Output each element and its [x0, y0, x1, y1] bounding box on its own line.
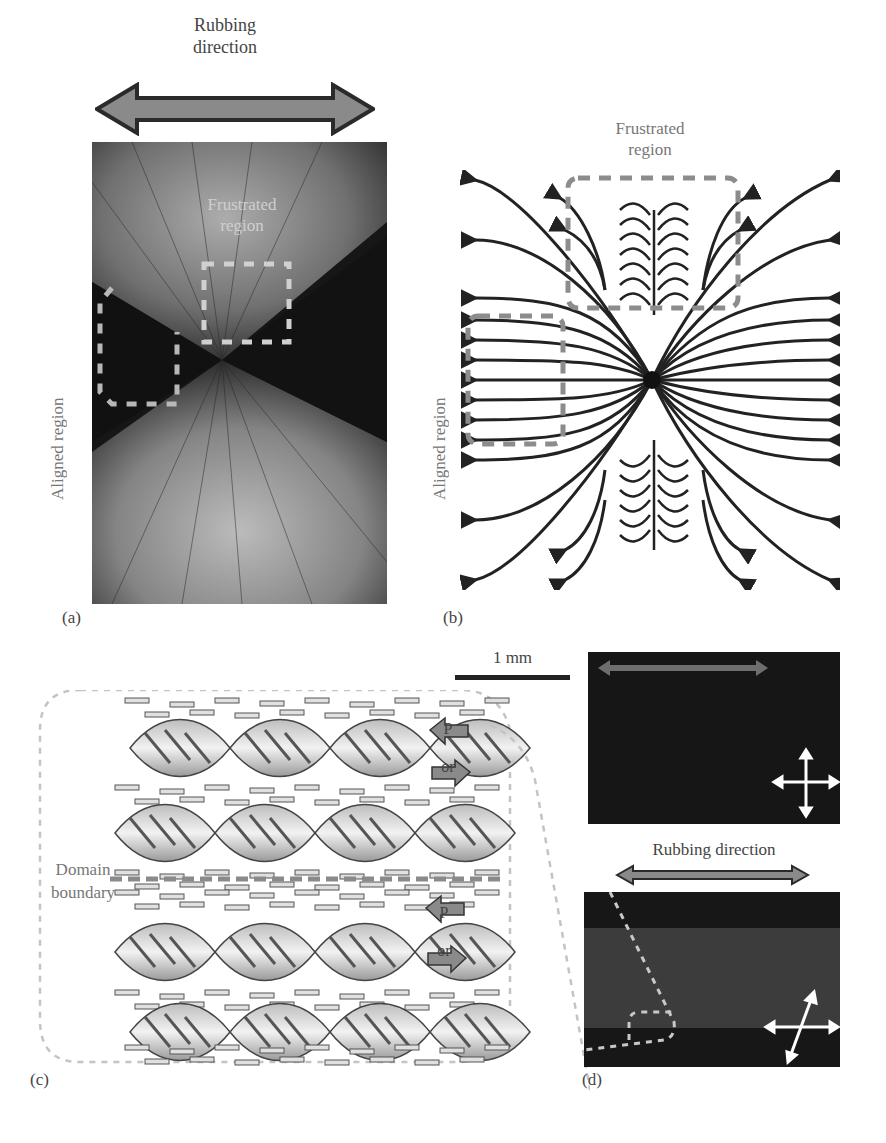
panel-letter-c: (c): [30, 1070, 49, 1090]
panel-letter-a: (a): [62, 608, 81, 628]
or-label-lower: or: [424, 942, 464, 960]
panel-letter-b: (b): [443, 608, 463, 628]
panel-letter-d: (d): [582, 1070, 602, 1090]
or-label-upper: or: [428, 758, 468, 776]
frustrated-region-label-a: Frustrated region: [172, 194, 312, 236]
frustrated-region-label-b: Frustrated region: [580, 118, 720, 160]
aligned-region-label-b: Aligned region: [430, 300, 450, 500]
domain-label-line1: Domain: [38, 858, 128, 881]
frustrated-label-line2: region: [172, 215, 312, 236]
frustrated-label-line1-b: Frustrated: [580, 118, 720, 139]
rubbing-direction-title: Rubbing direction: [125, 14, 325, 58]
polarization-label-lower: P: [424, 904, 464, 922]
rubbing-direction-label-d: Rubbing direction: [588, 840, 840, 860]
micrograph-d-upper-content: [588, 652, 840, 824]
frustrated-label-line2-b: region: [580, 139, 720, 160]
micrograph-a: Frustrated region: [92, 142, 387, 604]
scale-bar: [455, 675, 570, 680]
rubbing-label-line2: direction: [125, 36, 325, 58]
micrograph-d-upper: [588, 652, 840, 824]
micrograph-d-lower-content: [584, 892, 840, 1067]
domain-label-line2: boundary: [38, 881, 128, 904]
streamline-diagram: [460, 170, 840, 590]
rubbing-label-line1: Rubbing: [125, 14, 325, 36]
aligned-region-label-a: Aligned region: [48, 300, 68, 500]
double-arrow-icon-d: [615, 864, 810, 886]
domain-boundary-label: Domain boundary: [38, 858, 128, 904]
micrograph-d-lower: [584, 892, 840, 1067]
double-arrow-icon: [95, 82, 375, 136]
scale-bar-label: 1 mm: [455, 648, 570, 668]
polarization-label-upper: P: [428, 720, 468, 738]
frustrated-label-line1: Frustrated: [172, 194, 312, 215]
